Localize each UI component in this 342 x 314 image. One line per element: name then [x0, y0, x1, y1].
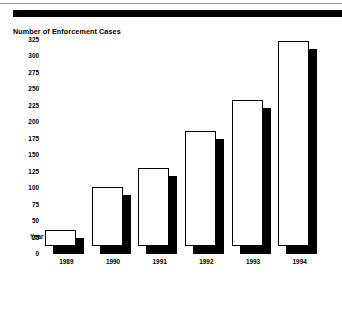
x-axis-label: Year	[30, 233, 44, 240]
bar-face-1990	[92, 187, 123, 246]
y-axis-tick-325: 325	[28, 37, 39, 43]
bar-1991	[138, 168, 177, 254]
y-axis-tick-150: 150	[28, 152, 39, 158]
x-axis-tick-1994: 1994	[276, 259, 323, 265]
y-axis-tick-200: 200	[28, 119, 39, 125]
y-axis-tick-75: 75	[32, 201, 39, 207]
x-axis-tick-1992: 1992	[183, 259, 230, 265]
bar-face-1991	[138, 168, 169, 246]
y-axis-tick-225: 225	[28, 103, 39, 109]
bar-1994	[278, 41, 317, 254]
chart-plot-area: 3253002752502252001751501251007550250 19…	[13, 40, 323, 270]
y-axis-tick-275: 275	[28, 70, 39, 76]
bar-1990	[92, 187, 131, 254]
x-axis-tick-1989: 1989	[43, 259, 90, 265]
top-horizontal-rule	[0, 3, 342, 4]
bar-face-1992	[185, 131, 216, 246]
y-axis-tick-125: 125	[28, 168, 39, 174]
bar-1989	[45, 230, 84, 254]
chart-title: Number of Enforcement Cases	[13, 27, 121, 36]
bars-canvas	[43, 40, 323, 254]
header-black-bar	[13, 10, 342, 17]
x-axis-tick-1990: 1990	[90, 259, 137, 265]
bar-face-1993	[232, 100, 263, 246]
y-axis-ticks: 3253002752502252001751501251007550250	[13, 40, 39, 254]
y-axis-tick-300: 300	[28, 53, 39, 59]
y-axis-tick-0: 0	[35, 251, 39, 257]
y-axis-tick-50: 50	[32, 218, 39, 224]
x-axis-tick-1993: 1993	[230, 259, 277, 265]
bar-1992	[185, 131, 224, 254]
x-axis-ticks: 198919901991199219931994	[43, 259, 323, 271]
bar-face-1989	[45, 230, 76, 246]
y-axis-tick-250: 250	[28, 86, 39, 92]
y-axis-tick-100: 100	[28, 185, 39, 191]
bar-face-1994	[278, 41, 309, 246]
x-axis-tick-1991: 1991	[136, 259, 183, 265]
y-axis-tick-175: 175	[28, 136, 39, 142]
bar-1993	[232, 100, 271, 254]
